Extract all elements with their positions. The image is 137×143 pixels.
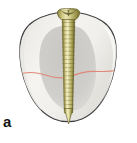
tooth-screw-illustration	[0, 0, 137, 143]
panel-label-a: a	[3, 114, 11, 129]
figure-panel-a: a	[0, 0, 137, 143]
